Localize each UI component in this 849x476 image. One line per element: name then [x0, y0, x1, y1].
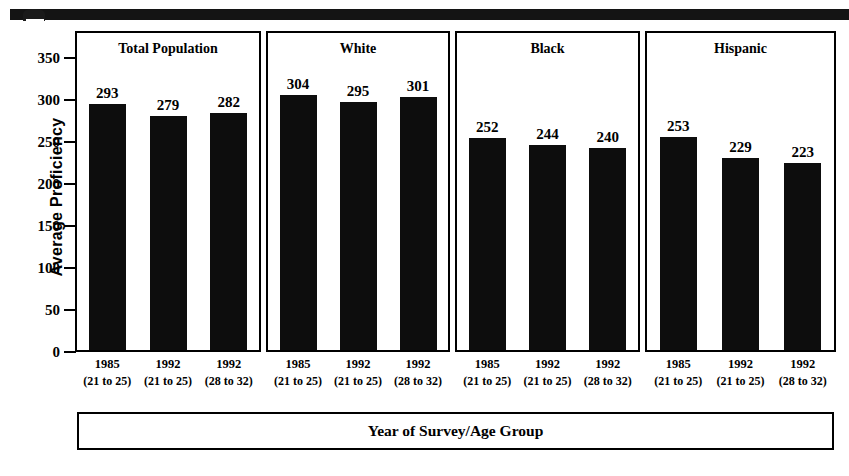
y-axis-ticks: 050100150200250300350: [28, 30, 76, 370]
bar: [589, 148, 626, 350]
x-label-age-group: (28 to 32): [578, 373, 638, 389]
bar-value-label: 282: [196, 95, 261, 110]
bar: [722, 158, 759, 350]
bar-value-label: 223: [770, 145, 835, 160]
bar-slot: 240: [589, 29, 626, 350]
chart-panel-hispanic: Hispanic253229223: [645, 31, 836, 352]
x-axis-tick-label: 1992(21 to 25): [709, 356, 771, 389]
chart-panel-black: Black252244240: [455, 31, 640, 352]
bar-group: 253229223: [647, 29, 834, 350]
x-label-age-group: (21 to 25): [268, 373, 328, 389]
x-label-age-group: (28 to 32): [198, 373, 259, 389]
x-label-year: 1985: [77, 356, 138, 373]
y-axis-tick-label: 0: [53, 345, 65, 360]
bar: [660, 137, 697, 350]
x-label-year: 1985: [457, 356, 517, 373]
bar-slot: 301: [400, 29, 437, 350]
bar-slot: 252: [469, 29, 506, 350]
x-label-age-group: (21 to 25): [517, 373, 577, 389]
bar-value-label: 304: [266, 77, 331, 92]
x-label-age-group: (21 to 25): [77, 373, 138, 389]
x-axis-tick-labels: 1985(21 to 25)1992(21 to 25)1992(28 to 3…: [75, 356, 836, 402]
x-axis-title-box: Year of Survey/Age Group: [77, 412, 834, 450]
y-axis-tick-label: 100: [38, 261, 65, 276]
decorative-top-rule: [10, 9, 849, 20]
bar-value-label: 293: [75, 86, 140, 101]
bar-slot: 279: [150, 29, 187, 350]
x-axis-tick-label: 1992(21 to 25): [517, 356, 577, 389]
bar-group: 293279282: [77, 29, 259, 350]
bar-slot: 244: [529, 29, 566, 350]
x-label-age-group: (28 to 32): [772, 373, 834, 389]
x-axis-tick-label: 1985(21 to 25): [457, 356, 517, 389]
x-label-age-group: (28 to 32): [388, 373, 448, 389]
x-label-age-group: (21 to 25): [328, 373, 388, 389]
plot-area: Total Population293279282White304295301B…: [75, 31, 836, 352]
bar: [150, 116, 187, 350]
y-axis-tick-label: 300: [38, 93, 65, 108]
bar-value-label: 240: [575, 130, 640, 145]
bar-slot: 293: [89, 29, 126, 350]
chart-panel-white: White304295301: [266, 31, 450, 352]
bar-slot: 295: [340, 29, 377, 350]
bar-group: 252244240: [457, 29, 638, 350]
x-label-year: 1992: [709, 356, 771, 373]
x-label-year: 1992: [578, 356, 638, 373]
x-label-year: 1992: [517, 356, 577, 373]
x-axis-tick-label: 1992(28 to 32): [772, 356, 834, 389]
bar-value-label: 301: [386, 79, 451, 94]
chart-panel-total-population: Total Population293279282: [75, 31, 261, 352]
x-label-age-group: (21 to 25): [647, 373, 709, 389]
bar-slot: 229: [722, 29, 759, 350]
x-label-year: 1985: [268, 356, 328, 373]
x-axis-tick-label: 1985(21 to 25): [268, 356, 328, 389]
bar-slot: 253: [660, 29, 697, 350]
bar: [784, 163, 821, 350]
x-axis-tick-label: 1992(21 to 25): [328, 356, 388, 389]
bar: [400, 97, 437, 350]
bar: [340, 102, 377, 350]
x-axis-tick-label: 1992(28 to 32): [578, 356, 638, 389]
x-label-age-group: (21 to 25): [138, 373, 199, 389]
bar-value-label: 295: [326, 84, 391, 99]
y-axis-tick-label: 150: [38, 219, 65, 234]
bar: [210, 113, 247, 350]
bar: [529, 145, 566, 350]
x-label-year: 1992: [388, 356, 448, 373]
x-axis-tick-label: 1985(21 to 25): [77, 356, 138, 389]
x-label-year: 1992: [198, 356, 259, 373]
bar-value-label: 253: [646, 119, 711, 134]
scan-artifact-notch: [26, 19, 44, 23]
bar-slot: 223: [784, 29, 821, 350]
x-axis-title: Year of Survey/Age Group: [368, 422, 544, 440]
bar: [89, 104, 126, 350]
y-axis-tick-label: 200: [38, 177, 65, 192]
bar-group: 304295301: [268, 29, 448, 350]
x-label-year: 1992: [138, 356, 199, 373]
bar-value-label: 252: [455, 120, 520, 135]
x-label-year: 1992: [772, 356, 834, 373]
bar: [469, 138, 506, 350]
x-label-age-group: (21 to 25): [709, 373, 771, 389]
y-axis-tick-label: 250: [38, 135, 65, 150]
bar-slot: 282: [210, 29, 247, 350]
bar-value-label: 244: [515, 127, 580, 142]
x-axis-tick-label: 1992(21 to 25): [138, 356, 199, 389]
bar-slot: 304: [280, 29, 317, 350]
x-label-year: 1992: [328, 356, 388, 373]
x-label-year: 1985: [647, 356, 709, 373]
bar: [280, 95, 317, 350]
y-axis-tick-label: 350: [38, 51, 65, 66]
x-axis-tick-label: 1992(28 to 32): [198, 356, 259, 389]
x-label-age-group: (21 to 25): [457, 373, 517, 389]
x-axis-tick-label: 1985(21 to 25): [647, 356, 709, 389]
x-axis-tick-label: 1992(28 to 32): [388, 356, 448, 389]
bar-value-label: 279: [136, 98, 201, 113]
y-axis-tick-label: 50: [45, 303, 64, 318]
bar-value-label: 229: [708, 140, 773, 155]
